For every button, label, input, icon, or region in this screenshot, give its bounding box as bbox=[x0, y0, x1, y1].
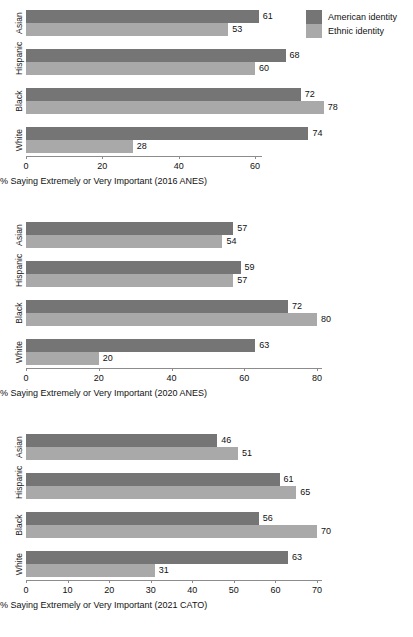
bar-value-white-ethnic-identity: 31 bbox=[159, 564, 169, 577]
bar-black-ethnic-identity[interactable] bbox=[26, 313, 317, 326]
category-label-asian: Asian bbox=[14, 222, 24, 248]
x-axis-tick-50 bbox=[234, 580, 235, 583]
x-axis-tick-label-20: 20 bbox=[104, 585, 114, 595]
bar-value-black-american-identity: 56 bbox=[263, 512, 273, 525]
bar-value-black-american-identity: 72 bbox=[305, 88, 315, 101]
bar-value-black-ethnic-identity: 78 bbox=[328, 101, 338, 114]
x-axis-tick-label-20: 20 bbox=[97, 161, 107, 171]
category-label-white: White bbox=[14, 339, 24, 365]
bar-hispanic-ethnic-identity[interactable] bbox=[26, 486, 296, 499]
x-axis-line bbox=[26, 156, 262, 157]
legend-item-ethnic-identity[interactable]: Ethnic identity bbox=[306, 24, 411, 38]
x-axis-tick-label-0: 0 bbox=[23, 373, 28, 383]
x-axis-tick-0 bbox=[26, 368, 27, 371]
legend-label-american-identity: American identity bbox=[328, 11, 397, 23]
bar-value-white-ethnic-identity: 28 bbox=[137, 140, 147, 153]
bar-value-black-ethnic-identity: 80 bbox=[321, 313, 331, 326]
bar-asian-ethnic-identity[interactable] bbox=[26, 235, 222, 248]
bar-asian-american-identity[interactable] bbox=[26, 222, 233, 235]
bar-value-white-american-identity: 63 bbox=[292, 551, 302, 564]
x-axis-tick-label-10: 10 bbox=[63, 585, 73, 595]
bar-black-american-identity[interactable] bbox=[26, 512, 259, 525]
x-axis-tick-label-0: 0 bbox=[23, 161, 28, 171]
chart-panel-2020-anes: Asian5754Hispanic5957Black7280White63200… bbox=[0, 212, 413, 422]
x-axis-tick-label-60: 60 bbox=[250, 161, 260, 171]
chart-panel-2016-anes: Asian6153Hispanic6860Black7278White74280… bbox=[0, 0, 413, 210]
bar-white-american-identity[interactable] bbox=[26, 339, 255, 352]
bar-asian-american-identity[interactable] bbox=[26, 434, 217, 447]
bar-value-black-american-identity: 72 bbox=[292, 300, 302, 313]
x-axis-tick-label-0: 0 bbox=[23, 585, 28, 595]
x-axis-tick-0 bbox=[26, 580, 27, 583]
x-axis-tick-60 bbox=[244, 368, 245, 371]
bar-value-hispanic-american-identity: 61 bbox=[284, 473, 294, 486]
bar-asian-ethnic-identity[interactable] bbox=[26, 447, 238, 460]
bar-value-black-ethnic-identity: 70 bbox=[321, 525, 331, 538]
bar-white-american-identity[interactable] bbox=[26, 551, 288, 564]
bar-white-ethnic-identity[interactable] bbox=[26, 564, 155, 577]
bar-black-ethnic-identity[interactable] bbox=[26, 101, 324, 114]
legend-swatch-american-identity bbox=[306, 10, 322, 24]
x-axis-tick-label-40: 40 bbox=[166, 373, 176, 383]
x-axis-tick-60 bbox=[255, 156, 256, 159]
bar-black-american-identity[interactable] bbox=[26, 88, 301, 101]
bar-hispanic-ethnic-identity[interactable] bbox=[26, 62, 255, 75]
bar-value-white-ethnic-identity: 20 bbox=[103, 352, 113, 365]
bar-hispanic-american-identity[interactable] bbox=[26, 261, 241, 274]
legend-label-ethnic-identity: Ethnic identity bbox=[328, 25, 384, 37]
bar-value-asian-ethnic-identity: 53 bbox=[232, 23, 242, 36]
bar-value-asian-ethnic-identity: 54 bbox=[226, 235, 236, 248]
x-axis-tick-label-70: 70 bbox=[312, 585, 322, 595]
bar-asian-ethnic-identity[interactable] bbox=[26, 23, 228, 36]
x-axis-tick-label-60: 60 bbox=[270, 585, 280, 595]
legend-swatch-ethnic-identity bbox=[306, 24, 322, 38]
x-axis-tick-30 bbox=[151, 580, 152, 583]
x-axis-tick-40 bbox=[179, 156, 180, 159]
x-axis-line bbox=[26, 580, 322, 581]
x-axis-tick-label-40: 40 bbox=[187, 585, 197, 595]
x-axis-tick-0 bbox=[26, 156, 27, 159]
bar-white-ethnic-identity[interactable] bbox=[26, 140, 133, 153]
x-axis-tick-40 bbox=[192, 580, 193, 583]
category-label-asian: Asian bbox=[14, 434, 24, 460]
chart-panel-2021-cato: Asian4651Hispanic6165Black5670White63310… bbox=[0, 424, 413, 637]
bar-hispanic-ethnic-identity[interactable] bbox=[26, 274, 233, 287]
bar-value-asian-american-identity: 57 bbox=[237, 222, 247, 235]
bar-black-ethnic-identity[interactable] bbox=[26, 525, 317, 538]
bar-value-asian-american-identity: 46 bbox=[221, 434, 231, 447]
category-label-asian: Asian bbox=[14, 10, 24, 36]
x-axis-tick-label-50: 50 bbox=[229, 585, 239, 595]
category-label-hispanic: Hispanic bbox=[14, 261, 24, 287]
bar-value-hispanic-american-identity: 68 bbox=[290, 49, 300, 62]
legend: American identity Ethnic identity bbox=[306, 10, 411, 38]
legend-item-american-identity[interactable]: American identity bbox=[306, 10, 411, 24]
category-label-black: Black bbox=[14, 512, 24, 538]
x-axis-tick-label-60: 60 bbox=[239, 373, 249, 383]
bar-value-asian-american-identity: 61 bbox=[263, 10, 273, 23]
x-axis-tick-label-40: 40 bbox=[174, 161, 184, 171]
bar-value-hispanic-ethnic-identity: 57 bbox=[237, 274, 247, 287]
bar-white-ethnic-identity[interactable] bbox=[26, 352, 99, 365]
x-axis-tick-20 bbox=[109, 580, 110, 583]
category-label-white: White bbox=[14, 127, 24, 153]
bar-hispanic-american-identity[interactable] bbox=[26, 473, 280, 486]
bar-hispanic-american-identity[interactable] bbox=[26, 49, 286, 62]
figure-three-bar-charts: Asian6153Hispanic6860Black7278White74280… bbox=[0, 0, 413, 637]
category-label-hispanic: Hispanic bbox=[14, 49, 24, 75]
bar-black-american-identity[interactable] bbox=[26, 300, 288, 313]
x-axis-tick-label-20: 20 bbox=[94, 373, 104, 383]
bar-asian-american-identity[interactable] bbox=[26, 10, 259, 23]
bar-value-hispanic-american-identity: 59 bbox=[245, 261, 255, 274]
x-axis-tick-70 bbox=[317, 580, 318, 583]
bar-white-american-identity[interactable] bbox=[26, 127, 308, 140]
x-axis-tick-60 bbox=[275, 580, 276, 583]
x-axis-tick-20 bbox=[99, 368, 100, 371]
bar-value-hispanic-ethnic-identity: 60 bbox=[259, 62, 269, 75]
x-axis-tick-10 bbox=[68, 580, 69, 583]
x-axis-tick-80 bbox=[317, 368, 318, 371]
category-label-hispanic: Hispanic bbox=[14, 473, 24, 499]
bar-value-white-american-identity: 74 bbox=[312, 127, 322, 140]
bar-value-white-american-identity: 63 bbox=[259, 339, 269, 352]
x-axis-tick-label-30: 30 bbox=[146, 585, 156, 595]
x-axis-tick-20 bbox=[102, 156, 103, 159]
